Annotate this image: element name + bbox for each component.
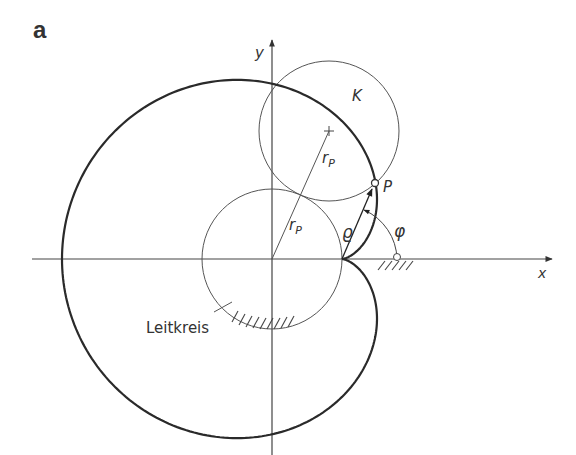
phi-label: φ [394, 221, 406, 241]
leitkreis-leader-line [214, 302, 232, 312]
cardioid-diagram: a x y Leitkreis K rP rP ϱ φ [0, 0, 576, 455]
fixed-circle-hatching [232, 311, 294, 329]
angle-pivot-icon [394, 254, 401, 261]
radius-label-upper: rP [322, 149, 335, 170]
rolling-circle-label: K [352, 87, 363, 105]
y-axis-label: y [254, 44, 265, 62]
rho-label: ϱ [342, 222, 353, 242]
point-p-label: P [383, 178, 393, 196]
ground-hatching [378, 261, 413, 270]
x-axis-label: x [537, 265, 547, 281]
radius-label-lower: rP [289, 216, 302, 237]
leitkreis-label: Leitkreis [146, 319, 209, 337]
radius-line [272, 131, 329, 259]
point-p [372, 180, 379, 187]
panel-label: a [33, 16, 47, 43]
